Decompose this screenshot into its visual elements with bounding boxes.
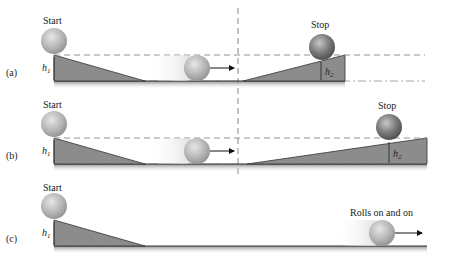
panel-c-label: (c)	[6, 233, 17, 245]
moving-ball	[184, 138, 210, 164]
floor-shadow	[54, 164, 427, 172]
galileo-ramps-diagram: (a) Start h1 Stop h2 (b) Start	[0, 0, 451, 263]
start-label: Start	[43, 182, 62, 193]
panel-b: (b) Start h1 Stop h2	[6, 99, 427, 172]
stop-label: Stop	[311, 19, 329, 30]
start-ball	[41, 111, 67, 137]
stop-ball	[309, 34, 335, 60]
start-ball	[41, 28, 67, 54]
panel-a: (a) Start h1 Stop h2	[6, 15, 425, 89]
panel-b-label: (b)	[6, 150, 18, 162]
floor-shadow	[54, 81, 345, 89]
stop-ball	[376, 114, 402, 140]
panel-c: (c) Start h1 Rolls on and on	[6, 182, 427, 254]
h1-label: h1	[42, 62, 51, 75]
rolls-on-label: Rolls on and on	[350, 207, 413, 218]
h1-label: h1	[42, 145, 51, 158]
stop-label: Stop	[378, 100, 396, 111]
left-ramp	[54, 55, 145, 81]
h1-label: h1	[42, 227, 51, 240]
floor-shadow	[54, 246, 427, 254]
left-ramp	[54, 220, 145, 246]
start-label: Start	[43, 99, 62, 110]
start-ball	[41, 193, 67, 219]
moving-ball	[184, 55, 210, 81]
panel-a-label: (a)	[6, 67, 17, 79]
start-label: Start	[43, 15, 62, 26]
rolling-ball	[369, 220, 395, 246]
left-ramp	[54, 138, 145, 164]
